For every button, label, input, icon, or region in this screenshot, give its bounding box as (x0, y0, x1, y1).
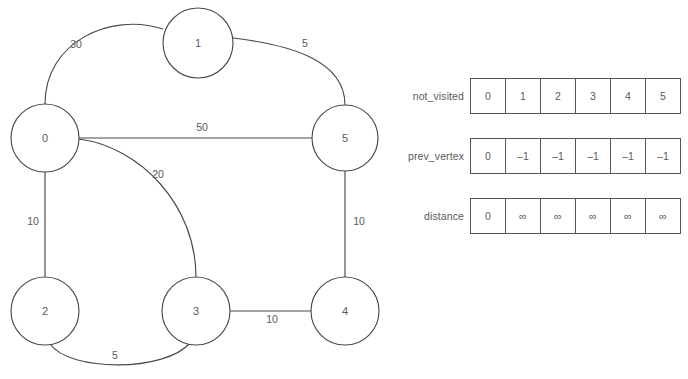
graph-node-label-0: 0 (42, 132, 48, 144)
array-cell[interactable]: ∞ (611, 199, 646, 233)
diagram-canvas: 0 1 2 3 4 5 30 5 50 20 10 10 10 5 not_vi… (0, 0, 688, 379)
array-cell[interactable]: 0 (471, 139, 506, 173)
graph-nodes (11, 8, 379, 345)
array-cell[interactable]: ∞ (646, 199, 681, 233)
weighted-graph: 0 1 2 3 4 5 30 5 50 20 10 10 10 5 (0, 0, 400, 379)
array-cell[interactable]: –1 (611, 139, 646, 173)
array-cell[interactable]: ∞ (541, 199, 576, 233)
array-cells-prev-vertex: 0 –1 –1 –1 –1 –1 (470, 138, 681, 174)
array-row-distance: distance 0 ∞ ∞ ∞ ∞ ∞ (396, 198, 688, 234)
array-cell[interactable]: 3 (576, 79, 611, 113)
edge-0-1 (45, 24, 163, 104)
edge-weight-0-2: 10 (27, 215, 39, 227)
array-cell[interactable]: –1 (576, 139, 611, 173)
array-cells-distance: 0 ∞ ∞ ∞ ∞ ∞ (470, 198, 681, 234)
algorithm-state-arrays: not_visited 0 1 2 3 4 5 prev_vertex 0 –1… (396, 78, 688, 234)
array-cell[interactable]: –1 (506, 139, 541, 173)
array-row-not-visited: not_visited 0 1 2 3 4 5 (396, 78, 688, 114)
array-cell[interactable]: 2 (541, 79, 576, 113)
edge-0-3 (79, 139, 196, 277)
graph-node-labels: 0 1 2 3 4 5 (42, 37, 348, 317)
array-label-distance: distance (396, 210, 470, 222)
array-cell[interactable]: ∞ (506, 199, 541, 233)
graph-node-label-4: 4 (342, 305, 348, 317)
array-cell[interactable]: –1 (646, 139, 681, 173)
array-label-prev-vertex: prev_vertex (396, 150, 470, 162)
edge-weight-5-4: 10 (353, 215, 365, 227)
edge-weight-2-3: 5 (112, 349, 118, 361)
array-cells-not-visited: 0 1 2 3 4 5 (470, 78, 681, 114)
graph-node-label-5: 5 (342, 132, 348, 144)
array-cell[interactable]: –1 (541, 139, 576, 173)
array-cell[interactable]: 5 (646, 79, 681, 113)
array-cell[interactable]: 4 (611, 79, 646, 113)
array-cell[interactable]: 0 (471, 79, 506, 113)
edge-weight-1-5: 5 (302, 37, 308, 49)
array-cell[interactable]: 0 (471, 199, 506, 233)
array-label-not-visited: not_visited (396, 90, 470, 102)
edge-weight-0-1: 30 (70, 38, 82, 50)
graph-node-label-3: 3 (193, 305, 199, 317)
graph-node-label-2: 2 (42, 305, 48, 317)
edge-weight-0-3: 20 (152, 168, 164, 180)
array-cell[interactable]: 1 (506, 79, 541, 113)
array-cell[interactable]: ∞ (576, 199, 611, 233)
edge-1-5 (233, 38, 345, 105)
edge-weight-0-5: 50 (196, 121, 208, 133)
edge-2-3 (50, 343, 190, 365)
array-row-prev-vertex: prev_vertex 0 –1 –1 –1 –1 –1 (396, 138, 688, 174)
graph-node-label-1: 1 (195, 37, 201, 49)
edge-weight-3-4: 10 (266, 313, 278, 325)
